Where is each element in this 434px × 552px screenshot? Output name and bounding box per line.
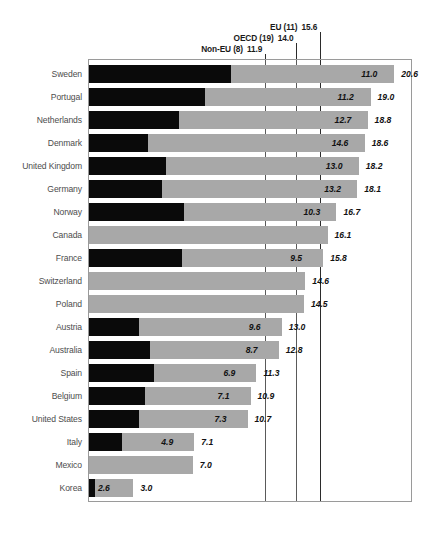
category-label-germany: Germany — [0, 177, 82, 200]
bar-segment-inner — [89, 249, 182, 267]
chart-container: Non-EU (8)11.9OECD (19)14.0EU (11)15.6 S… — [0, 0, 434, 552]
bar-value-inner: 9.6 — [249, 318, 261, 336]
bar-value-total: 18.6 — [372, 134, 389, 152]
bar-value-total: 11.3 — [263, 364, 279, 382]
bar-track: 13.018.2 — [89, 154, 434, 177]
bar-track: 2.63.0 — [89, 477, 434, 500]
bar-row: United Kingdom13.018.2 — [0, 154, 434, 177]
bar-track: 11.020.6 — [89, 62, 434, 85]
bar-value-total: 7.0 — [200, 456, 212, 474]
bar-segment-inner — [89, 134, 148, 152]
bar-row: Norway10.316.7 — [0, 200, 434, 223]
bar-row: France9.515.8 — [0, 246, 434, 269]
stacked-bar: 10.316.7 — [89, 203, 336, 221]
bar-track: 12.718.8 — [89, 108, 434, 131]
bar-segment-inner — [89, 364, 154, 382]
bar-segment-total — [89, 479, 133, 497]
category-label-portugal: Portugal — [0, 85, 82, 108]
bar-segment-inner — [89, 88, 205, 106]
bar-track: 7.0 — [89, 454, 434, 477]
bar-value-total: 18.2 — [366, 157, 383, 175]
bar-track: 4.97.1 — [89, 431, 434, 454]
bar-value-inner: 12.7 — [335, 111, 352, 129]
category-label-switzerland: Switzerland — [0, 269, 82, 292]
reference-line-label: EU (11)15.6 — [270, 22, 320, 32]
bar-value-inner: 4.9 — [161, 433, 173, 451]
bar-track: 14.618.6 — [89, 131, 434, 154]
bar-row: Italy4.97.1 — [0, 431, 434, 454]
category-label-poland: Poland — [0, 293, 82, 316]
bar-value-inner: 11.0 — [361, 65, 377, 83]
bar-track: 7.110.9 — [89, 385, 434, 408]
bar-track: 14.5 — [89, 293, 434, 316]
bar-value-inner: 13.2 — [324, 180, 341, 198]
bar-segment-inner — [89, 387, 145, 405]
bar-value-inner: 8.7 — [246, 341, 258, 359]
category-label-sweden: Sweden — [0, 62, 82, 85]
reference-line-labels: Non-EU (8)11.9OECD (19)14.0EU (11)15.6 — [0, 0, 434, 59]
category-label-mexico: Mexico — [0, 454, 82, 477]
bar-segment-inner — [89, 341, 150, 359]
stacked-bar: 12.718.8 — [89, 111, 368, 129]
bar-track: 13.218.1 — [89, 177, 434, 200]
bar-rows: Sweden11.020.6Portugal11.219.0Netherland… — [0, 59, 434, 502]
bar-value-inner: 9.5 — [290, 249, 302, 267]
bar-track: 16.1 — [89, 223, 434, 246]
bar-segment-inner — [89, 180, 162, 198]
bar-track: 8.712.8 — [89, 339, 434, 362]
bar-value-total: 18.8 — [375, 111, 392, 129]
category-label-norway: Norway — [0, 200, 82, 223]
bar-value-inner: 13.0 — [326, 157, 343, 175]
category-label-france: France — [0, 246, 82, 269]
bar-row: Belgium7.110.9 — [0, 385, 434, 408]
bar-value-total: 7.1 — [201, 433, 213, 451]
bar-track: 7.310.7 — [89, 408, 434, 431]
stacked-bar: 13.218.1 — [89, 180, 357, 198]
stacked-bar: 4.97.1 — [89, 433, 194, 451]
bar-value-total: 16.1 — [335, 226, 352, 244]
bar-value-total: 3.0 — [140, 479, 152, 497]
stacked-bar: 11.219.0 — [89, 88, 371, 106]
stacked-bar: 8.712.8 — [89, 341, 279, 359]
category-label-united-states: United States — [0, 408, 82, 431]
bar-track: 11.219.0 — [89, 85, 434, 108]
bar-value-inner: 2.6 — [98, 479, 110, 497]
stacked-bar: 7.0 — [89, 456, 193, 474]
stacked-bar: 7.110.9 — [89, 387, 251, 405]
reference-line-label: Non-EU (8)11.9 — [201, 44, 265, 54]
stacked-bar: 2.63.0 — [89, 479, 133, 497]
reference-line-stub — [320, 32, 321, 59]
bar-value-inner: 7.3 — [215, 410, 227, 428]
bar-track: 6.911.3 — [89, 362, 434, 385]
stacked-bar: 9.515.8 — [89, 249, 323, 267]
bar-value-total: 20.6 — [401, 65, 418, 83]
category-label-denmark: Denmark — [0, 131, 82, 154]
bar-value-inner: 11.2 — [338, 88, 354, 106]
bar-value-total: 13.0 — [289, 318, 306, 336]
bar-track: 14.6 — [89, 269, 434, 292]
bar-segment-total — [89, 295, 304, 313]
bar-row: Netherlands12.718.8 — [0, 108, 434, 131]
bar-row: Austria9.613.0 — [0, 316, 434, 339]
category-label-australia: Australia — [0, 339, 82, 362]
bar-value-total: 12.8 — [286, 341, 303, 359]
stacked-bar: 14.6 — [89, 272, 305, 290]
bar-value-total: 10.9 — [258, 387, 275, 405]
bar-value-inner: 14.6 — [332, 134, 349, 152]
stacked-bar: 14.618.6 — [89, 134, 365, 152]
bar-row: Sweden11.020.6 — [0, 62, 434, 85]
bar-value-inner: 6.9 — [223, 364, 235, 382]
bar-segment-total — [89, 456, 193, 474]
bar-track: 9.613.0 — [89, 316, 434, 339]
reference-line-name: Non-EU (8) — [201, 44, 243, 54]
bar-segment-inner — [89, 203, 184, 221]
bar-segment-inner — [89, 479, 95, 497]
bar-value-inner: 7.1 — [218, 387, 230, 405]
bar-value-total: 10.7 — [255, 410, 272, 428]
bar-track: 10.316.7 — [89, 200, 434, 223]
bar-row: Spain6.911.3 — [0, 362, 434, 385]
reference-line-value: 11.9 — [247, 44, 262, 54]
bar-value-total: 14.6 — [312, 272, 329, 290]
bar-segment-inner — [89, 65, 231, 83]
bar-segment-inner — [89, 157, 166, 175]
